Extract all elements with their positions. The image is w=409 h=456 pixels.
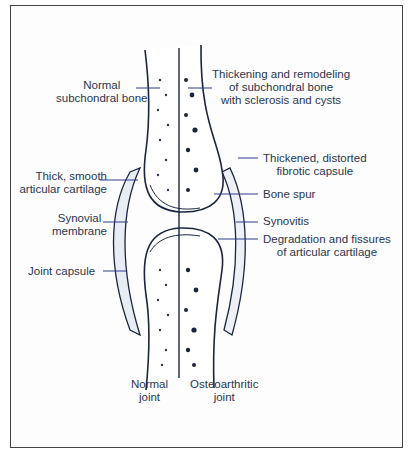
label-line: Synovial xyxy=(52,212,107,225)
label-line: Normal xyxy=(56,79,147,92)
label-line: Degradation and fissures xyxy=(263,233,391,246)
label-line: fibrotic capsule xyxy=(263,165,367,178)
label-synovitis: Synovitis xyxy=(263,215,309,228)
label-thick-smooth-cartilage: Thick, smooth articular cartilage xyxy=(12,170,107,196)
label-line: Thickened, distorted xyxy=(263,152,367,165)
label-line: joint xyxy=(131,391,168,404)
label-synovial-membrane: Synovial membrane xyxy=(52,212,107,238)
label-line: with sclerosis and cysts xyxy=(212,94,350,107)
label-joint-capsule: Joint capsule xyxy=(28,265,95,278)
label-line: of subchondral bone xyxy=(212,81,350,94)
label-line: subchondral bone xyxy=(56,92,147,105)
label-line: joint xyxy=(190,391,258,404)
label-osteoarthritic-joint: Osteoarthritic joint xyxy=(190,378,258,404)
label-degradation-fissures: Degradation and fissures of articular ca… xyxy=(263,233,391,259)
label-line: membrane xyxy=(52,225,107,238)
label-line: articular cartilage xyxy=(12,183,107,196)
label-line: Normal xyxy=(131,378,168,391)
label-line: Osteoarthritic xyxy=(190,378,258,391)
label-line: Thickening and remodeling xyxy=(212,68,350,81)
label-bone-spur: Bone spur xyxy=(263,188,315,201)
label-thickened-capsule: Thickened, distorted fibrotic capsule xyxy=(263,152,367,178)
label-normal-joint: Normal joint xyxy=(131,378,168,404)
label-line: Thick, smooth xyxy=(12,170,107,183)
label-normal-subchondral-bone: Normal subchondral bone xyxy=(56,79,147,105)
label-line: of articular cartilage xyxy=(263,246,391,259)
label-thickening-remodeling: Thickening and remodeling of subchondral… xyxy=(212,68,350,107)
